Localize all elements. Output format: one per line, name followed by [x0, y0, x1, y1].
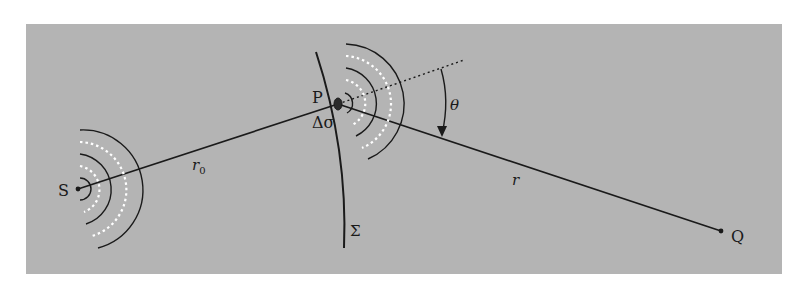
label-q: Q	[731, 227, 744, 246]
angle-theta-arc	[441, 69, 446, 134]
label-delta-sigma: Δσ	[312, 113, 335, 132]
point-s	[76, 187, 81, 192]
label-p: P	[312, 88, 323, 107]
point-q	[719, 229, 724, 234]
diagram-canvas: S P Q Δσ Σ r0 r θ	[0, 0, 804, 296]
line-p-to-q	[338, 104, 721, 231]
label-r: r	[512, 171, 520, 189]
surface-sigma-curve	[316, 52, 344, 248]
label-sigma-surface: Σ	[350, 222, 361, 240]
label-s: S	[58, 181, 69, 200]
angle-arrowhead-icon	[437, 126, 447, 137]
label-theta: θ	[450, 96, 459, 114]
source-wavefronts	[80, 130, 143, 248]
line-s-to-p	[78, 104, 338, 189]
secondary-wavefronts	[345, 44, 404, 159]
area-element-delta-sigma	[334, 98, 342, 110]
label-r0: r0	[192, 156, 206, 176]
